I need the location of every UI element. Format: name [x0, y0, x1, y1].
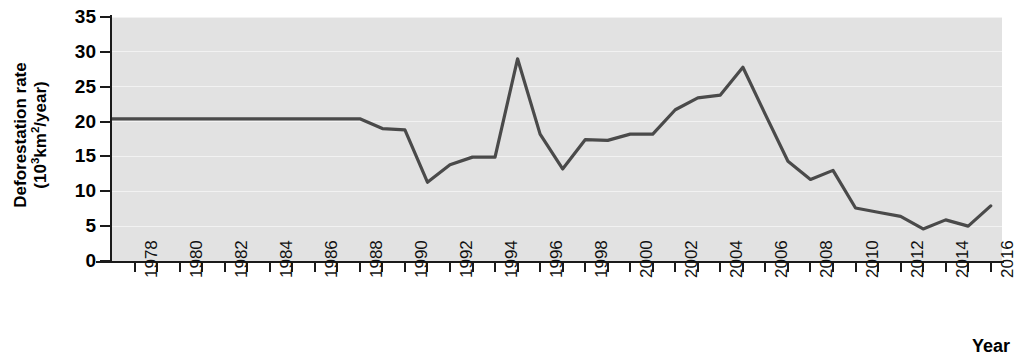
x-axis-tick-label: 2016: [998, 240, 1018, 278]
y-axis-tick: [100, 225, 111, 227]
y-axis-tick-label: 35: [62, 7, 96, 26]
x-axis-tick: [134, 262, 136, 272]
x-axis-tick-label: 1986: [322, 240, 342, 278]
y-axis-tick: [100, 121, 111, 123]
y-axis-title: Deforestation rate (103km2/year): [0, 0, 62, 270]
x-axis-tick: [900, 262, 902, 272]
x-axis-tick: [945, 262, 947, 272]
y-axis-tick: [100, 155, 111, 157]
x-axis-tick: [990, 262, 992, 272]
x-axis-tick: [674, 262, 676, 272]
x-axis-title: Year: [972, 336, 1010, 357]
x-axis-tick-label: 1982: [232, 240, 252, 278]
x-axis-tick-label: 2006: [772, 240, 792, 278]
y-axis-tick-label: 0: [62, 251, 96, 270]
x-axis-tick: [764, 262, 766, 272]
x-axis-tick: [449, 262, 451, 272]
x-axis-tick-label: 1980: [187, 240, 207, 278]
y-axis-tick: [100, 51, 111, 53]
y-axis-tick-label: 20: [62, 112, 96, 131]
deforestation-line-chart: Deforestation rate (103km2/year) 3530252…: [0, 0, 1018, 364]
x-axis-tick: [809, 262, 811, 272]
x-axis-tick-label: 1988: [367, 240, 387, 278]
x-axis-tick-label: 2002: [682, 240, 702, 278]
y-axis-tick-label: 5: [62, 216, 96, 235]
x-axis-tick-label: 2004: [727, 240, 747, 278]
x-axis-tick: [539, 262, 541, 272]
plot-area: [112, 17, 1002, 261]
x-axis-tick: [719, 262, 721, 272]
x-axis-tick: [224, 262, 226, 272]
y-axis-tick-label: 30: [62, 42, 96, 61]
y-axis-tick-label: 25: [62, 77, 96, 96]
y-axis-tick-label: 15: [62, 146, 96, 165]
x-axis-tick: [584, 262, 586, 272]
cropped-title-artifact: [430, 0, 610, 6]
y-axis-tick-label: 10: [62, 181, 96, 200]
x-axis-tick-label: 1992: [457, 240, 477, 278]
x-axis-tick-label: 1994: [502, 240, 522, 278]
x-axis-tick: [314, 262, 316, 272]
x-axis-tick-label: 2010: [863, 240, 883, 278]
x-axis-tick-label: 2012: [908, 240, 928, 278]
x-axis-tick-label: 1996: [547, 240, 567, 278]
x-axis-tick-label: 1978: [142, 240, 162, 278]
x-axis-tick: [855, 262, 857, 272]
x-axis-tick: [269, 262, 271, 272]
x-axis-tick-label: 1984: [277, 240, 297, 278]
y-axis-tick: [100, 16, 111, 18]
x-axis-tick: [629, 262, 631, 272]
x-axis-tick: [179, 262, 181, 272]
y-axis-tick: [100, 190, 111, 192]
y-axis-tick: [100, 86, 111, 88]
x-axis-tick-label: 1998: [592, 240, 612, 278]
y-axis-title-line1: Deforestation rate: [11, 62, 31, 207]
x-axis-tick: [404, 262, 406, 272]
x-axis-tick: [494, 262, 496, 272]
y-axis-tick-labels: 35302520151050: [60, 0, 96, 280]
y-axis-tick: [100, 260, 111, 262]
x-axis-tick-label: 1990: [412, 240, 432, 278]
x-axis-tick-label: 2008: [817, 240, 837, 278]
x-axis-tick-label: 2000: [637, 240, 657, 278]
x-axis-tick-label: 2014: [953, 240, 973, 278]
x-axis-tick: [359, 262, 361, 272]
y-axis-title-line2: (103km2/year): [31, 62, 51, 207]
series-line: [112, 17, 1002, 261]
